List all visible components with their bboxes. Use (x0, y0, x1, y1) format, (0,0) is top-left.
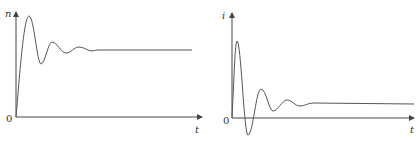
origin-label: 0 (223, 115, 229, 126)
chart-current: i 0 t (222, 10, 415, 135)
origin-label: 0 (6, 113, 12, 124)
x-axis-label: t (410, 124, 415, 135)
x-axis-label: t (195, 124, 200, 135)
y-axis-label: i (222, 10, 225, 21)
speed-curve (16, 16, 192, 117)
y-axis-label: n (5, 8, 11, 19)
charts-canvas: n 0 t i 0 t (0, 0, 418, 141)
chart-speed: n 0 t (5, 8, 202, 135)
current-curve (232, 41, 414, 135)
